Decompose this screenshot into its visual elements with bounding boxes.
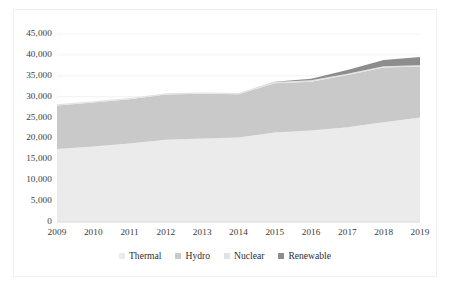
- x-axis-tick-label: 2009: [39, 227, 75, 237]
- y-axis-tick-label: 30,000: [0, 91, 52, 101]
- x-axis-tick-label: 2013: [184, 227, 220, 237]
- x-axis-tick-label: 2011: [112, 227, 148, 237]
- y-axis-tick-label: 15,000: [0, 153, 52, 163]
- y-axis-tick-label: 20,000: [0, 132, 52, 142]
- x-axis-tick-label: 2017: [329, 227, 365, 237]
- legend-item-renewable[interactable]: Renewable: [278, 250, 331, 261]
- area-series-group: [57, 57, 420, 222]
- y-axis-tick-label: 5,000: [0, 195, 52, 205]
- legend-swatch-icon: [119, 253, 125, 259]
- chart-legend: ThermalHydroNuclearRenewable: [13, 250, 437, 261]
- x-axis-tick-label: 2014: [221, 227, 257, 237]
- legend-item-thermal[interactable]: Thermal: [119, 250, 162, 261]
- y-axis-tick-label: 40,000: [0, 49, 52, 59]
- y-axis-tick-label: 0: [0, 216, 52, 226]
- legend-label: Thermal: [129, 250, 162, 261]
- legend-swatch-icon: [175, 253, 181, 259]
- y-axis-tick-label: 35,000: [0, 70, 52, 80]
- legend-label: Renewable: [288, 250, 331, 261]
- legend-swatch-icon: [278, 253, 284, 259]
- y-axis-tick-label: 25,000: [0, 112, 52, 122]
- legend-item-nuclear[interactable]: Nuclear: [224, 250, 264, 261]
- x-axis-tick-label: 2016: [293, 227, 329, 237]
- legend-swatch-icon: [224, 253, 230, 259]
- y-axis-tick-label: 10,000: [0, 174, 52, 184]
- legend-label: Hydro: [185, 250, 210, 261]
- x-axis-tick-label: 2018: [366, 227, 402, 237]
- y-axis-tick-label: 45,000: [0, 28, 52, 38]
- legend-label: Nuclear: [234, 250, 264, 261]
- x-axis-tick-label: 2010: [75, 227, 111, 237]
- x-axis-tick-label: 2019: [402, 227, 438, 237]
- x-axis-tick-label: 2015: [257, 227, 293, 237]
- legend-item-hydro[interactable]: Hydro: [175, 250, 210, 261]
- x-axis-tick-label: 2012: [148, 227, 184, 237]
